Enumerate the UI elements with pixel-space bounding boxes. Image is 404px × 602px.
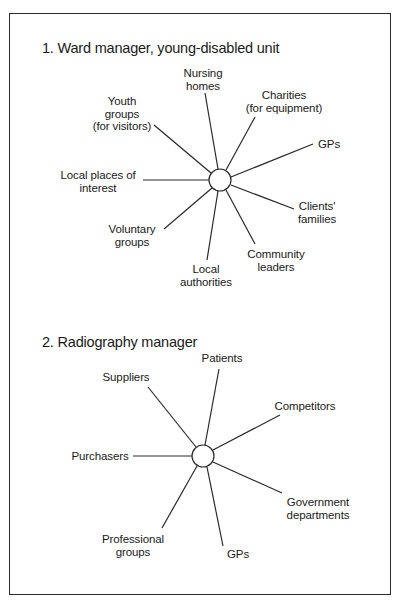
label-community-leaders: Community leaders bbox=[247, 248, 304, 273]
diagram-2-title: 2. Radiography manager bbox=[42, 334, 197, 350]
label-nursing-homes: Nursing homes bbox=[184, 67, 223, 92]
label-purchasers: Purchasers bbox=[71, 450, 128, 463]
diagram-1-title: 1. Ward manager, young-disabled unit bbox=[42, 40, 279, 56]
label-gps-2: GPs bbox=[227, 548, 249, 561]
label-professional-groups: Professional groups bbox=[102, 533, 164, 558]
label-patients: Patients bbox=[202, 352, 243, 365]
label-clients-families: Clients' families bbox=[298, 200, 336, 225]
label-youth-groups: Youth groups (for visitors) bbox=[93, 95, 152, 133]
label-competitors: Competitors bbox=[275, 400, 336, 413]
label-government-departments: Government departments bbox=[287, 496, 350, 521]
label-suppliers: Suppliers bbox=[102, 371, 149, 384]
label-charities: Charities (for equipment) bbox=[246, 89, 322, 114]
label-gps-1: GPs bbox=[318, 138, 340, 151]
label-local-places: Local places of interest bbox=[60, 169, 135, 194]
hub-circle-2 bbox=[192, 445, 214, 467]
label-voluntary-groups: Voluntary groups bbox=[108, 223, 155, 248]
hub-circle-1 bbox=[209, 169, 231, 191]
label-local-authorities: Local authorities bbox=[180, 263, 232, 288]
